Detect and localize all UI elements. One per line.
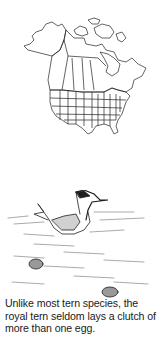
tern-illustration — [4, 190, 154, 298]
royal-tern-icon — [4, 190, 154, 298]
figure-caption: Unlike most tern species, the royal tern… — [5, 297, 161, 335]
egg-icon — [29, 259, 43, 269]
egg-icon — [102, 287, 118, 297]
range-map — [22, 16, 152, 138]
north-america-map-icon — [22, 16, 152, 138]
